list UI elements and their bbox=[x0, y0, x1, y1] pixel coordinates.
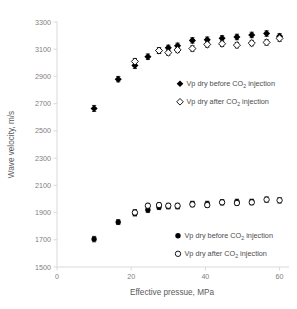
data-point-marker bbox=[145, 203, 150, 208]
y-tick-label: 1500 bbox=[35, 263, 51, 272]
data-point-marker bbox=[277, 198, 282, 203]
legend-label-prefix: Vp dry before CO bbox=[185, 231, 242, 240]
y-tick-label: 2900 bbox=[35, 72, 51, 81]
legend-label-suffix: injection bbox=[246, 79, 275, 88]
y-axis-title: Wave velocity, m/s bbox=[7, 111, 16, 178]
y-tick-label: 2500 bbox=[35, 126, 51, 135]
y-tick-label: 3300 bbox=[35, 18, 51, 27]
data-point-marker bbox=[205, 202, 210, 207]
data-point-marker bbox=[91, 236, 96, 241]
y-tick-label: 1900 bbox=[35, 208, 51, 217]
legend-label-prefix: Vp dry before CO bbox=[187, 79, 244, 88]
data-point-marker bbox=[175, 203, 180, 208]
legend-entry[interactable]: Vp dry before CO2 injection bbox=[175, 231, 273, 241]
legend-entry[interactable]: Vp dry after CO2 injection bbox=[177, 97, 269, 107]
legend-entry[interactable]: Vp dry after CO2 injection bbox=[175, 249, 267, 259]
data-point-marker bbox=[177, 80, 184, 87]
legend-label-suffix: injection bbox=[238, 249, 267, 258]
data-point-marker bbox=[263, 39, 270, 46]
legend-label: Vp dry before CO2 injection bbox=[187, 79, 275, 89]
data-point-marker bbox=[249, 200, 254, 205]
data-point-marker bbox=[175, 233, 180, 238]
data-point-marker bbox=[248, 31, 255, 38]
data-point-marker bbox=[91, 105, 98, 112]
data-point-marker bbox=[131, 58, 138, 65]
data-point-marker bbox=[219, 200, 224, 205]
data-point-marker bbox=[156, 202, 161, 207]
data-point-marker bbox=[174, 46, 181, 53]
scatter-plot-svg: 1500170019002100230025002700290031003300… bbox=[0, 0, 297, 309]
data-series-layer bbox=[91, 30, 284, 242]
data-point-marker bbox=[263, 30, 270, 37]
data-point-marker bbox=[189, 37, 196, 44]
legend-upper: Vp dry before CO2 injectionVp dry after … bbox=[177, 79, 275, 107]
y-tick-label: 1700 bbox=[35, 235, 51, 244]
chart-figure: 1500170019002100230025002700290031003300… bbox=[0, 0, 297, 309]
legend-label: Vp dry after CO2 injection bbox=[185, 249, 267, 259]
data-point-marker bbox=[144, 53, 151, 60]
y-tick-label: 2100 bbox=[35, 181, 51, 190]
data-point-marker bbox=[190, 202, 195, 207]
data-point-marker bbox=[115, 76, 122, 83]
legend-label: Vp dry before CO2 injection bbox=[185, 231, 273, 241]
x-tick-label: 0 bbox=[55, 272, 59, 281]
legend-lower: Vp dry before CO2 injectionVp dry after … bbox=[175, 231, 273, 259]
x-tick-label: 20 bbox=[127, 272, 135, 281]
data-point-marker bbox=[248, 40, 255, 47]
data-point-marker bbox=[233, 33, 240, 40]
data-point-marker bbox=[234, 200, 239, 205]
data-point-marker bbox=[175, 251, 180, 256]
y-tick-label: 2300 bbox=[35, 154, 51, 163]
data-point-marker bbox=[166, 203, 171, 208]
data-point-marker bbox=[116, 219, 121, 224]
legend-layer: Vp dry before CO2 injectionVp dry after … bbox=[175, 79, 275, 259]
legend-label-prefix: Vp dry after CO bbox=[187, 97, 238, 106]
x-tick-label: 40 bbox=[201, 272, 209, 281]
data-point-marker bbox=[165, 49, 172, 56]
y-tick-label: 3100 bbox=[35, 45, 51, 54]
data-point-marker bbox=[155, 47, 162, 54]
series-3 bbox=[132, 197, 282, 216]
data-point-marker bbox=[219, 40, 226, 47]
legend-entry[interactable]: Vp dry before CO2 injection bbox=[177, 79, 275, 89]
data-point-marker bbox=[233, 42, 240, 49]
data-point-marker bbox=[132, 210, 137, 215]
legend-label-suffix: injection bbox=[240, 97, 269, 106]
data-point-marker bbox=[204, 41, 211, 48]
data-point-marker bbox=[264, 197, 269, 202]
legend-label-suffix: injection bbox=[244, 231, 273, 240]
legend-label-prefix: Vp dry after CO bbox=[185, 249, 236, 258]
data-point-marker bbox=[177, 98, 184, 105]
data-point-marker bbox=[189, 45, 196, 52]
legend-label: Vp dry after CO2 injection bbox=[187, 97, 269, 107]
y-tick-label: 2700 bbox=[35, 99, 51, 108]
x-axis-title: Effective pressue, MPa bbox=[130, 288, 214, 297]
axis-layer: 1500170019002100230025002700290031003300… bbox=[35, 18, 289, 281]
x-tick-label: 60 bbox=[276, 272, 284, 281]
